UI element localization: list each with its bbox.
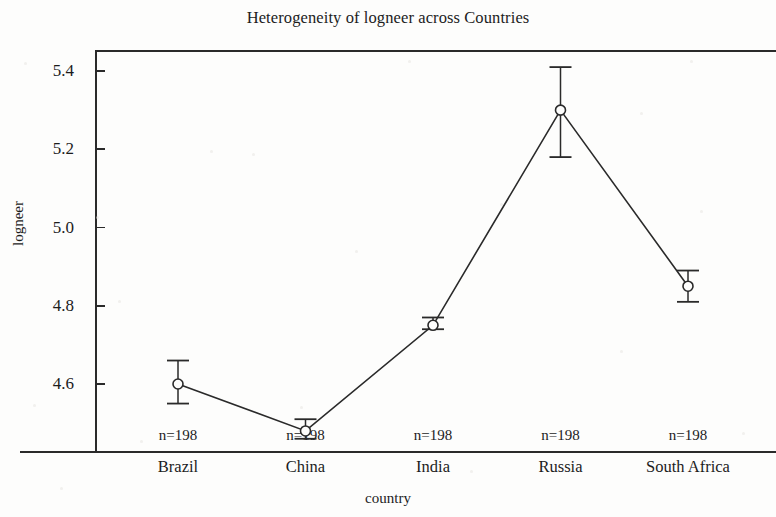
chart-page: Heterogeneity of logneer across Countrie… xyxy=(0,0,776,517)
scan-speck xyxy=(140,440,143,443)
scan-speck xyxy=(690,60,693,63)
y-tick-mark xyxy=(95,383,105,385)
scan-speck xyxy=(742,432,745,435)
y-tick-mark xyxy=(95,70,105,72)
scan-speck xyxy=(33,404,36,407)
scan-speck xyxy=(500,203,503,206)
y-tick-label: 5.0 xyxy=(12,219,74,236)
y-tick-label: 5.4 xyxy=(12,62,74,79)
x-axis-title: country xyxy=(0,490,776,507)
scan-speck xyxy=(210,150,213,153)
scan-speck xyxy=(96,216,99,219)
scan-speck xyxy=(470,470,473,473)
scan-speck xyxy=(118,300,121,303)
chart-title: Heterogeneity of logneer across Countrie… xyxy=(0,8,776,28)
y-tick-mark xyxy=(95,148,105,150)
y-tick-label: 4.6 xyxy=(12,375,74,392)
y-tick-mark xyxy=(95,227,105,229)
scan-speck xyxy=(700,210,703,213)
scan-speck xyxy=(620,350,623,353)
x-axis-line xyxy=(20,451,776,453)
y-tick-mark xyxy=(95,305,105,307)
scan-speck xyxy=(300,406,303,409)
scan-speck xyxy=(24,62,27,65)
scan-speck xyxy=(60,487,63,490)
scan-speck xyxy=(408,60,411,63)
x-tick-label: South Africa xyxy=(613,457,763,477)
y-tick-label: 4.8 xyxy=(12,297,74,314)
y-tick-label: 5.2 xyxy=(12,140,74,157)
plot-frame xyxy=(95,50,776,452)
scan-speck xyxy=(252,153,255,156)
scan-speck xyxy=(355,250,358,253)
scan-speck xyxy=(640,112,643,115)
sample-size-label: n=198 xyxy=(613,427,763,444)
